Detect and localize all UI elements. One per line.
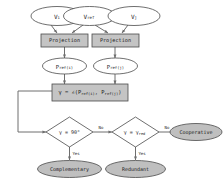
edge-label-yes-1: Yes bbox=[72, 151, 80, 156]
edge-label-no-2: No bbox=[165, 125, 170, 130]
edge-formula-to-decision-orthogonal bbox=[18, 91, 52, 132]
node-projection-left[interactable]: Projection bbox=[41, 34, 88, 47]
node-v-j[interactable]: Vj bbox=[108, 7, 160, 26]
edge-label-no-1: No bbox=[99, 125, 104, 130]
node-angle-formula[interactable]: γ = ∠(Pref(i), Pref(j)) bbox=[52, 84, 128, 101]
node-p-ref-j-arg: (j) bbox=[117, 65, 124, 70]
formula-sub-2: ref(j) bbox=[105, 91, 119, 96]
formula-sub-1: ref(i) bbox=[81, 91, 95, 96]
node-outcome-redundant-label: Redundant bbox=[122, 166, 149, 172]
node-p-ref-i[interactable]: Pref(i) bbox=[43, 58, 87, 74]
edge-label-yes-2: Yes bbox=[138, 151, 146, 156]
projection-result-nodes: Pref(i) Pref(j) bbox=[43, 58, 138, 74]
input-nodes: Vi Vref Vj bbox=[31, 7, 160, 26]
node-outcome-complementary[interactable]: Complementary bbox=[38, 161, 102, 178]
node-decision-redundant-label: γ = γ bbox=[124, 129, 139, 136]
node-v-ref-sub: ref bbox=[87, 15, 95, 20]
node-outcome-complementary-label: Complementary bbox=[50, 166, 89, 173]
formula-tail: ) bbox=[118, 89, 121, 95]
node-decision-orthogonal[interactable]: γ = 90° bbox=[46, 117, 93, 147]
edge-vj-to-projection-right bbox=[122, 25, 128, 33]
node-outcome-redundant[interactable]: Redundant bbox=[106, 161, 166, 178]
edge-vref-to-projection-right bbox=[95, 25, 108, 33]
flowchart-diagram: decision2 --> Complementary --> Cooperat… bbox=[0, 0, 223, 181]
node-decision-redundant-sub: red bbox=[139, 132, 146, 136]
formula-mid: , P bbox=[95, 89, 105, 95]
edge-vref-to-projection-left bbox=[72, 25, 83, 33]
node-projection-left-label: Projection bbox=[49, 37, 80, 44]
edge-vi-to-projection-left bbox=[51, 25, 57, 33]
node-decision-redundant[interactable]: γ = γred bbox=[112, 117, 159, 147]
node-v-j-sub: j bbox=[135, 15, 137, 20]
node-outcome-cooperative-label: Cooperative bbox=[179, 129, 212, 136]
node-decision-orthogonal-label: γ = 90° bbox=[59, 129, 80, 136]
node-p-ref-i-arg: (i) bbox=[66, 65, 73, 70]
node-projection-right[interactable]: Projection bbox=[92, 34, 139, 47]
node-p-ref-j[interactable]: Pref(j) bbox=[94, 58, 138, 74]
process-nodes: Projection Projection bbox=[41, 34, 139, 47]
diagram-canvas: decision2 --> Complementary --> Cooperat… bbox=[0, 0, 223, 181]
node-outcome-cooperative[interactable]: Cooperative bbox=[170, 124, 222, 141]
formula-head: γ = ∠(P bbox=[58, 89, 81, 96]
node-projection-right-label: Projection bbox=[100, 37, 131, 44]
